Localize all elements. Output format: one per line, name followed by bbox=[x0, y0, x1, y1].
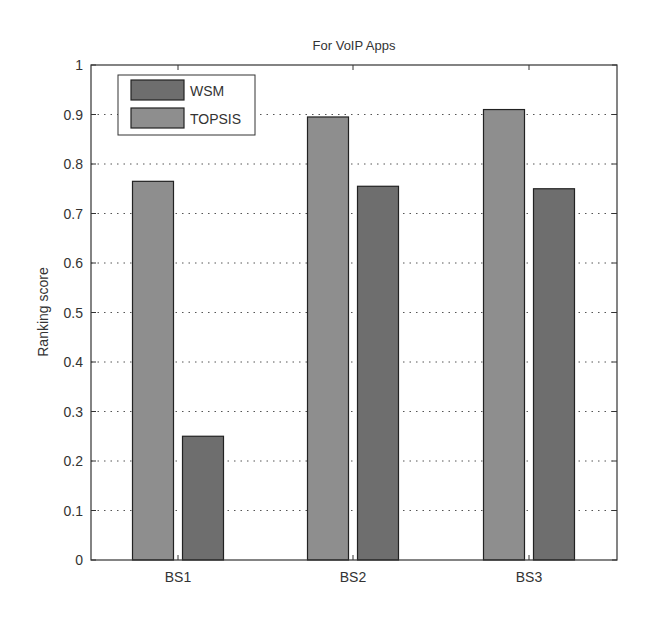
y-tick-label: 1 bbox=[75, 57, 83, 73]
bar-wsm-bs2 bbox=[358, 186, 399, 560]
legend: WSMTOPSIS bbox=[118, 75, 255, 135]
chart-title: For VoIP Apps bbox=[313, 38, 396, 53]
y-tick-label: 0.8 bbox=[64, 156, 84, 172]
y-tick-label: 0.9 bbox=[64, 107, 84, 123]
y-axis-label: Ranking score bbox=[35, 267, 51, 357]
bar-topsis-bs1 bbox=[133, 181, 174, 560]
y-tick-label: 0.3 bbox=[64, 404, 84, 420]
y-tick-label: 0.6 bbox=[64, 255, 84, 271]
x-tick-label: BS1 bbox=[165, 569, 192, 585]
y-tick-label: 0.4 bbox=[64, 354, 84, 370]
bar-wsm-bs1 bbox=[183, 436, 224, 560]
legend-label-wsm: WSM bbox=[190, 83, 224, 99]
legend-swatch-topsis bbox=[131, 108, 184, 128]
legend-label-topsis: TOPSIS bbox=[190, 111, 241, 127]
x-tick-label: BS3 bbox=[516, 569, 543, 585]
x-tick-label: BS2 bbox=[340, 569, 367, 585]
y-tick-label: 0.1 bbox=[64, 503, 84, 519]
legend-swatch-wsm bbox=[131, 80, 184, 100]
y-tick-label: 0.5 bbox=[64, 305, 84, 321]
bar-chart: For VoIP Apps 00.10.20.30.40.50.60.70.80… bbox=[0, 0, 651, 620]
bar-topsis-bs2 bbox=[308, 117, 349, 560]
bars bbox=[133, 110, 575, 560]
bar-wsm-bs3 bbox=[534, 189, 575, 560]
bar-topsis-bs3 bbox=[484, 110, 525, 560]
y-tick-label: 0.7 bbox=[64, 206, 84, 222]
y-tick-label: 0.2 bbox=[64, 453, 84, 469]
y-tick-label: 0 bbox=[75, 552, 83, 568]
